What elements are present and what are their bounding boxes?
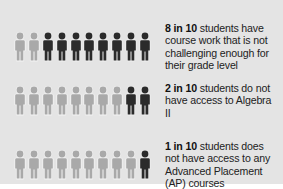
person-icon <box>42 86 54 116</box>
person-icon <box>97 150 109 180</box>
person-icon <box>56 150 68 180</box>
person-icon <box>14 32 26 62</box>
person-icon-highlighted <box>42 32 54 62</box>
person-icon <box>42 150 54 180</box>
person-icon-highlighted <box>125 86 137 116</box>
person-icon-group <box>14 150 156 180</box>
person-icon-highlighted <box>111 32 123 62</box>
person-icon-highlighted <box>56 32 68 62</box>
stat-value: 8 in 10 <box>165 22 197 34</box>
person-icon <box>125 150 137 180</box>
stat-row-course-work: 8 in 10 students have course work that i… <box>14 22 276 72</box>
person-icon-highlighted <box>139 150 151 180</box>
stat-description: 8 in 10 students have course work that i… <box>165 22 276 72</box>
person-icon <box>111 86 123 116</box>
person-icon <box>28 150 40 180</box>
person-icon-highlighted <box>70 32 82 62</box>
stat-value: 1 in 10 <box>165 140 197 152</box>
person-icon-highlighted <box>125 32 137 62</box>
stat-row-ap-courses: 1 in 10 students does not have access to… <box>14 140 276 184</box>
person-icon-group <box>14 32 156 62</box>
person-icon <box>56 86 68 116</box>
person-icon <box>14 150 26 180</box>
person-icon-group <box>14 86 156 116</box>
person-icon-highlighted <box>139 32 151 62</box>
stat-description: 2 in 10 students do not have access to A… <box>165 82 276 119</box>
infographic-panel: 8 in 10 students have course work that i… <box>0 0 283 184</box>
person-icon <box>83 86 95 116</box>
stat-row-algebra-ii: 2 in 10 students do not have access to A… <box>14 82 276 119</box>
person-icon <box>70 150 82 180</box>
person-icon <box>111 150 123 180</box>
person-icon-highlighted <box>97 32 109 62</box>
person-icon <box>14 86 26 116</box>
person-icon <box>70 86 82 116</box>
stat-description: 1 in 10 students does not have access to… <box>165 140 276 184</box>
person-icon-highlighted <box>139 86 151 116</box>
stat-value: 2 in 10 <box>165 82 197 94</box>
person-icon <box>97 86 109 116</box>
person-icon <box>28 32 40 62</box>
person-icon <box>28 86 40 116</box>
person-icon <box>83 150 95 180</box>
person-icon-highlighted <box>83 32 95 62</box>
